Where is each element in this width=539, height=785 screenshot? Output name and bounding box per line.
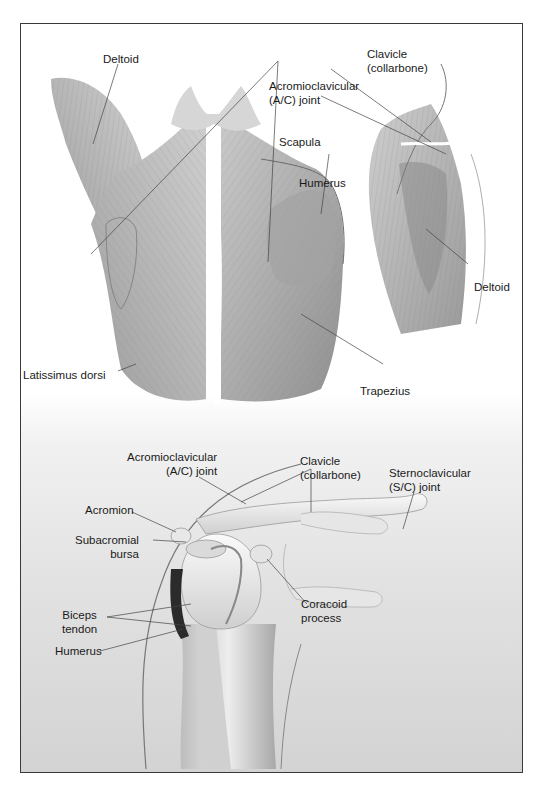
label-coracoid-line2: process	[301, 611, 347, 625]
anatomy-illustration	[21, 24, 522, 772]
label-ac-joint-bottom: Acromioclavicular (A/C) joint	[127, 450, 217, 478]
label-ac-joint-top: Acromioclavicular (A/C) joint	[269, 79, 359, 107]
label-humerus-bottom: Humerus	[55, 644, 102, 658]
shoulder-joint-illustration	[143, 464, 427, 769]
label-clavicle-top-line2: (collarbone)	[367, 61, 428, 75]
label-coracoid-process: Coracoid process	[301, 597, 347, 625]
label-biceps-tendon: Biceps tendon	[62, 608, 97, 636]
label-sc-joint: Sternoclavicular (S/C) joint	[389, 466, 471, 494]
back-muscles-illustration	[51, 78, 344, 404]
label-sc-joint-line2: (S/C) joint	[389, 480, 471, 494]
label-clavicle-bottom: Clavicle (collarbone)	[300, 454, 361, 482]
label-deltoid-back: Deltoid	[103, 52, 139, 66]
label-biceps-line2: tendon	[62, 622, 97, 636]
lateral-arm-illustration	[369, 64, 485, 334]
label-humerus-top: Humerus	[299, 176, 346, 190]
label-ac-joint-bottom-line1: Acromioclavicular	[127, 450, 217, 464]
label-subacromial-bursa: Subacromial bursa	[75, 533, 139, 561]
label-clavicle-bottom-line2: (collarbone)	[300, 468, 361, 482]
label-clavicle-top: Clavicle (collarbone)	[367, 47, 428, 75]
label-biceps-line1: Biceps	[62, 608, 97, 622]
label-ac-joint-top-line2: (A/C) joint	[269, 93, 359, 107]
label-ac-joint-top-line1: Acromioclavicular	[269, 79, 359, 93]
label-scapula: Scapula	[279, 135, 321, 149]
label-acromion: Acromion	[85, 503, 134, 517]
label-ac-joint-bottom-line2: (A/C) joint	[127, 464, 217, 478]
label-coracoid-line1: Coracoid	[301, 597, 347, 611]
label-subacromial-line2: bursa	[75, 547, 139, 561]
label-clavicle-top-line1: Clavicle	[367, 47, 428, 61]
label-latissimus-dorsi: Latissimus dorsi	[23, 368, 105, 382]
label-clavicle-bottom-line1: Clavicle	[300, 454, 361, 468]
label-sc-joint-line1: Sternoclavicular	[389, 466, 471, 480]
label-trapezius: Trapezius	[360, 384, 410, 398]
label-subacromial-line1: Subacromial	[75, 533, 139, 547]
figure-frame: Deltoid Clavicle (collarbone) Acromiocla…	[20, 23, 523, 773]
label-deltoid-arm: Deltoid	[474, 280, 510, 294]
